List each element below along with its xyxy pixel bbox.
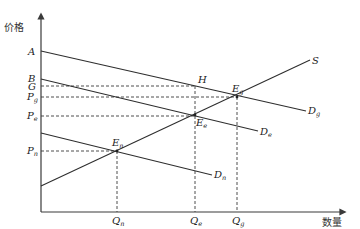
y-axis-title: 价格 [4, 21, 24, 33]
supply-curve-S [41, 60, 310, 186]
x-label-Qg: Qg [232, 215, 244, 228]
y-label-A: A [27, 46, 35, 57]
point-Eg [236, 96, 239, 99]
y-label-Pn: Pn [26, 145, 38, 158]
x-axis-title: 数量 [322, 216, 342, 228]
demand-curve-De [41, 79, 258, 131]
curve-label-S: S [312, 55, 319, 66]
x-label-Qn: Qn [112, 215, 124, 228]
supply-demand-diagram: 价格 数量 A B G Pg Pe Pn Qn Qe Qg S Dg De Dn… [0, 0, 360, 229]
y-label-Pg: Pg [26, 91, 38, 104]
point-Ee [194, 114, 197, 117]
curve-label-Dn: Dn [213, 169, 226, 182]
curve-label-De: De [259, 126, 272, 139]
y-label-Pe: Pe [26, 110, 38, 123]
point-label-H: H [197, 74, 207, 85]
curve-label-Dg: Dg [307, 105, 320, 118]
x-label-Qe: Qe [190, 215, 202, 228]
demand-curve-Dn [41, 133, 212, 175]
point-En [116, 150, 119, 153]
point-label-En: En [111, 137, 124, 150]
